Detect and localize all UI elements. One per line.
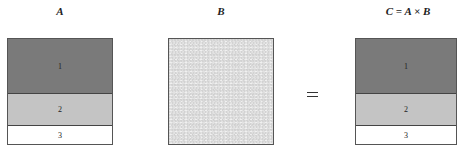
panel-c-box: 1 2 3	[355, 38, 457, 145]
panel-c-segment-2: 2	[356, 93, 456, 125]
panel-c-title: C = A × B	[360, 5, 456, 17]
panel-a-segment-2: 2	[8, 93, 112, 125]
panel-a-segment-1: 1	[8, 39, 112, 93]
panel-b-box	[168, 38, 274, 145]
equals-sign	[307, 92, 318, 100]
panel-a-segment-3: 3	[8, 125, 112, 144]
panel-c-segment-3: 3	[356, 125, 456, 144]
panel-c-segment-1: 1	[356, 39, 456, 93]
panel-a-box: 1 2 3	[7, 38, 113, 145]
panel-a-title: A	[20, 5, 100, 17]
panel-b-title: B	[181, 5, 261, 17]
